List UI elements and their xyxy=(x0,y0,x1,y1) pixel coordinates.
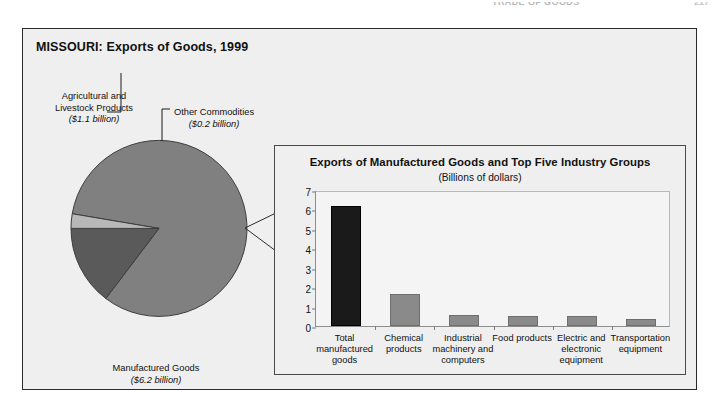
y-axis-tick-mark xyxy=(312,328,316,329)
bar-chart-plot-area: 01234567 xyxy=(315,191,670,327)
pie-label-agricultural-amount: ($1.1 billion) xyxy=(69,114,120,124)
pie-label-agricultural-name: Agricultural and Livestock Products xyxy=(55,91,133,113)
running-head-text: TRADE OF GOODS xyxy=(492,2,580,7)
figure-frame: MISSOURI: Exports of Goods, 1999 Agricul… xyxy=(22,28,697,390)
y-axis-tick-label: 6 xyxy=(305,206,311,217)
x-axis-tick-mark xyxy=(612,326,613,330)
bar-3 xyxy=(508,316,538,326)
pie-chart: Agricultural and Livestock Products ($1.… xyxy=(23,29,283,391)
running-head-page-number: 217 xyxy=(694,2,709,7)
pie-label-other-name: Other Commodities xyxy=(174,107,254,117)
bar-chart-title: Exports of Manufactured Goods and Top Fi… xyxy=(275,156,685,168)
y-axis-tick-mark xyxy=(312,250,316,251)
pie-label-manufactured: Manufactured Goods ($6.2 billion) xyxy=(98,363,214,386)
y-axis-tick-mark xyxy=(312,308,316,309)
bar-2 xyxy=(449,315,479,326)
y-axis-tick-mark xyxy=(312,269,316,270)
y-axis-tick-label: 5 xyxy=(305,225,311,236)
x-axis-tick-mark xyxy=(434,326,435,330)
y-axis-tick-mark xyxy=(312,192,316,193)
bar-chart-panel: Exports of Manufactured Goods and Top Fi… xyxy=(274,145,686,375)
y-axis-tick-label: 1 xyxy=(305,303,311,314)
x-axis-tick-mark xyxy=(375,326,376,330)
y-axis-tick-label: 2 xyxy=(305,284,311,295)
pie-label-agricultural: Agricultural and Livestock Products ($1.… xyxy=(51,91,137,126)
x-axis-tick-mark xyxy=(494,326,495,330)
y-axis-tick-label: 0 xyxy=(305,323,311,334)
pie-label-other: Other Commodities ($0.2 billion) xyxy=(161,107,267,130)
pie-label-manufactured-name: Manufactured Goods xyxy=(113,363,200,373)
bar-4 xyxy=(567,316,597,326)
x-axis-tick-mark xyxy=(553,326,554,330)
y-axis-tick-mark xyxy=(312,230,316,231)
y-axis-tick-label: 7 xyxy=(305,187,311,198)
y-axis-tick-mark xyxy=(312,289,316,290)
pie-chart-graphic xyxy=(23,29,283,391)
bar-chart-plot-wrap: 01234567 Total manufactured goodsChemica… xyxy=(315,191,670,327)
y-axis-tick-mark xyxy=(312,211,316,212)
y-axis-tick-label: 3 xyxy=(305,264,311,275)
pie-label-other-amount: ($0.2 billion) xyxy=(189,119,240,129)
bar-0 xyxy=(331,206,361,326)
bar-chart-subtitle: (Billions of dollars) xyxy=(275,172,685,183)
pie-label-manufactured-amount: ($6.2 billion) xyxy=(131,375,182,385)
y-axis-tick-label: 4 xyxy=(305,245,311,256)
bar-5 xyxy=(626,319,656,326)
running-head: TRADE OF GOODS 217 xyxy=(430,2,715,14)
bar-1 xyxy=(390,294,420,326)
x-axis-category-label: Transportation equipment xyxy=(605,333,676,355)
